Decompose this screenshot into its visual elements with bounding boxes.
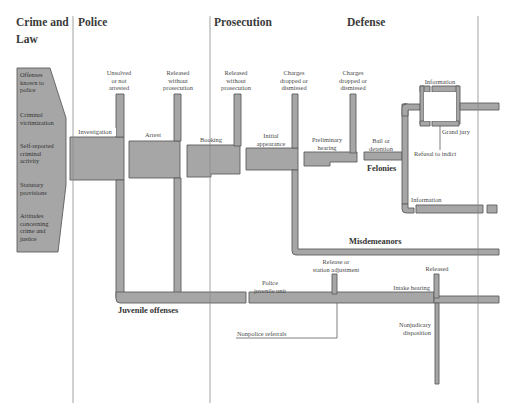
stage-line: Initial bbox=[251, 132, 291, 140]
felony-top-connector bbox=[402, 104, 420, 116]
stage-line: detention bbox=[363, 145, 399, 153]
source-line: police bbox=[20, 86, 44, 94]
flow-diagram bbox=[0, 0, 511, 416]
charges-exit-2 bbox=[350, 94, 356, 153]
stage-investigation: Investigation bbox=[74, 128, 116, 136]
information-bottom-bar-1 bbox=[416, 205, 483, 213]
stage-intake-hearing: Intake hearing bbox=[378, 284, 430, 292]
source-line: justice bbox=[20, 235, 48, 243]
exit-released-without-prosecution-1: Released without prosecution bbox=[158, 69, 198, 92]
exit-released-without-prosecution-2: Released without prosecution bbox=[216, 69, 256, 92]
source-criminal-victimization: Criminal victimization bbox=[20, 111, 54, 126]
exit-unsolved: Unsolved or not arrested bbox=[102, 69, 136, 92]
source-statutory-provisions: Statutory provisions bbox=[20, 181, 47, 196]
exit-line: Released bbox=[158, 69, 198, 77]
exit-line: dropped or bbox=[274, 77, 314, 85]
header-defense: Defense bbox=[347, 14, 385, 31]
exit-line: Charges bbox=[333, 69, 373, 77]
stage-arrest: Arrest bbox=[138, 131, 168, 139]
stage-line: appearance bbox=[251, 140, 291, 148]
source-line: Attitudes bbox=[20, 212, 48, 220]
station-adjustment-exit bbox=[332, 274, 337, 294]
information-bottom-bar-2 bbox=[487, 205, 497, 213]
source-offenses-known: Offenses known to police bbox=[20, 71, 44, 94]
arrest-block bbox=[129, 141, 180, 178]
stage-nonpolice-referrals: Nonpolice referrals bbox=[237, 330, 287, 338]
exit-release-station-adjustment: Release or station adjustment bbox=[307, 258, 365, 273]
source-line: concerning bbox=[20, 220, 48, 228]
stage-bail-or-detention: Bail or detention bbox=[363, 137, 399, 152]
exit-line: Release or bbox=[307, 258, 365, 266]
header-crime-and-law: Crime and Law bbox=[16, 14, 69, 48]
stage-information-top: Information bbox=[420, 78, 460, 86]
exit-line: or not bbox=[102, 77, 136, 85]
exit-line: Charges bbox=[274, 69, 314, 77]
bail-block bbox=[364, 152, 402, 160]
stage-initial-appearance: Initial appearance bbox=[251, 132, 291, 147]
juvenile-path-1 bbox=[116, 180, 124, 298]
stage-line: Preliminary bbox=[307, 136, 347, 144]
source-line: activity bbox=[20, 157, 54, 165]
stage-preliminary-hearing: Preliminary hearing bbox=[307, 136, 347, 151]
stage-nonjudicary-disposition: Nonjudicary disposition bbox=[385, 321, 431, 336]
juvenile-horizontal-3 bbox=[434, 296, 499, 303]
header-prosecution: Prosecution bbox=[214, 14, 272, 31]
exit-line: without bbox=[158, 77, 198, 85]
exit-line: arrested bbox=[102, 84, 136, 92]
header-police: Police bbox=[78, 14, 107, 31]
stage-line: Police bbox=[248, 279, 292, 287]
exit-charges-dropped-1: Charges dropped or dismissed bbox=[274, 69, 314, 92]
stage-grand-jury: Grand jury bbox=[442, 128, 470, 136]
exit-line: dismissed bbox=[274, 84, 314, 92]
loop-right-side bbox=[456, 86, 460, 124]
released-exit-1 bbox=[174, 94, 181, 141]
juvenile-path-2 bbox=[174, 178, 181, 298]
exit-line: station adjustment bbox=[307, 266, 365, 274]
category-misdemeanors: Misdemeanors bbox=[349, 237, 402, 246]
initial-appearance-block bbox=[246, 148, 298, 170]
unsolved-exit bbox=[116, 94, 124, 137]
stage-line: hearing bbox=[307, 144, 347, 152]
source-line: Self-reported bbox=[20, 142, 54, 150]
exit-line: prosecution bbox=[158, 84, 198, 92]
nonjudicary-exit bbox=[435, 303, 439, 384]
exit-line: Released bbox=[216, 69, 256, 77]
stage-line: Nonjudicary bbox=[385, 321, 431, 329]
source-line: provisions bbox=[20, 189, 47, 197]
preliminary-hearing-block bbox=[304, 152, 357, 166]
exit-line: dismissed bbox=[333, 84, 373, 92]
source-line: Offenses bbox=[20, 71, 44, 79]
source-line: criminal bbox=[20, 150, 54, 158]
exit-line: without bbox=[216, 77, 256, 85]
juvenile-horizontal-1 bbox=[116, 292, 246, 303]
charges-exit-1 bbox=[292, 94, 298, 148]
felony-continue bbox=[460, 103, 499, 110]
investigation-block bbox=[70, 137, 124, 180]
grand-jury-left bbox=[420, 121, 430, 126]
header-crime-and-law-line2: Law bbox=[16, 31, 69, 48]
exit-line: dropped or bbox=[333, 77, 373, 85]
source-attitudes: Attitudes concerning crime and justice bbox=[20, 212, 48, 242]
stage-line: disposition bbox=[385, 329, 431, 337]
stage-refusal-to-indict: Refusal to indict bbox=[414, 150, 456, 158]
category-juvenile-offenses: Juvenile offenses bbox=[118, 306, 178, 315]
stage-line: juvenile unit bbox=[248, 287, 292, 295]
grand-jury-right bbox=[432, 121, 459, 126]
released-exit-2 bbox=[234, 94, 241, 146]
exit-line: Unsolved bbox=[102, 69, 136, 77]
source-line: Statutory bbox=[20, 181, 47, 189]
source-line: known to bbox=[20, 79, 44, 87]
exit-charges-dropped-2: Charges dropped or dismissed bbox=[333, 69, 373, 92]
source-line: victimization bbox=[20, 119, 54, 127]
loop-left-side bbox=[420, 86, 424, 124]
source-line: Criminal bbox=[20, 111, 54, 119]
exit-line: prosecution bbox=[216, 84, 256, 92]
category-felonies: Felonies bbox=[367, 164, 396, 173]
stage-police-juvenile-unit: Police juvenile unit bbox=[248, 279, 292, 294]
information-bottom-route bbox=[402, 204, 414, 213]
information-top-right bbox=[432, 86, 459, 92]
stage-line: Bail or bbox=[363, 137, 399, 145]
stage-information-bottom: Information bbox=[411, 196, 442, 204]
booking-block bbox=[187, 145, 240, 177]
header-crime-and-law-line1: Crime and bbox=[16, 14, 69, 31]
